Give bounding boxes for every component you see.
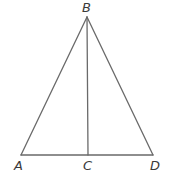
triangle-diagram: B A C D [0, 0, 171, 180]
segment-ab [21, 17, 87, 155]
segment-bd [87, 17, 153, 155]
label-d: D [150, 158, 160, 173]
segment-bc [87, 17, 88, 155]
label-b: B [82, 0, 91, 15]
label-a: A [13, 158, 23, 173]
label-c: C [83, 158, 93, 173]
